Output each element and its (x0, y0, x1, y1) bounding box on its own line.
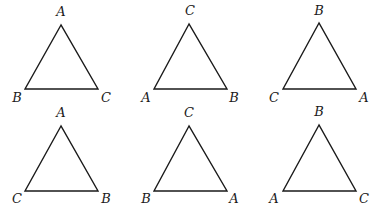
triangle-1: ABC (11, 4, 111, 105)
vertex-label-top: C (185, 3, 195, 18)
vertex-label-top: A (55, 4, 65, 19)
triangle-outline (283, 125, 356, 191)
vertex-label-left: A (268, 191, 278, 206)
triangle-3: BCA (269, 3, 369, 105)
triangle-6: BAC (268, 104, 369, 206)
triangle-5: CBA (140, 105, 238, 206)
vertex-label-top: B (313, 3, 324, 18)
vertex-label-right: A (228, 191, 238, 206)
vertex-label-right: A (358, 90, 368, 105)
vertex-label-top: B (313, 104, 324, 119)
triangle-outline (154, 24, 227, 89)
vertex-label-right: C (359, 191, 369, 206)
vertex-label-top: C (184, 105, 194, 120)
vertex-label-left: A (140, 90, 150, 105)
triangle-4: ACB (12, 105, 111, 206)
diagram-svg: ABCCABBCAACBCBABAC (0, 0, 381, 216)
triangle-2: CAB (140, 3, 238, 105)
vertex-label-right: B (100, 191, 111, 206)
vertex-label-right: C (101, 90, 111, 105)
vertex-label-right: B (228, 90, 239, 105)
triangle-outline (283, 23, 356, 89)
triangle-permutations-diagram: ABCCABBCAACBCBABAC (0, 0, 381, 216)
triangle-outline (154, 126, 227, 191)
vertex-label-left: B (140, 191, 151, 206)
triangle-outline (25, 126, 98, 191)
vertex-label-left: C (269, 90, 279, 105)
triangle-outline (25, 25, 98, 89)
vertex-label-left: C (12, 191, 22, 206)
vertex-label-top: A (55, 105, 65, 120)
vertex-label-left: B (11, 90, 22, 105)
